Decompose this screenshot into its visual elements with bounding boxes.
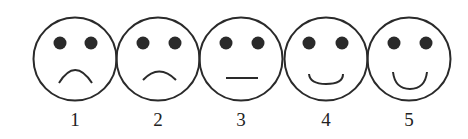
left-eye <box>303 37 316 50</box>
frown-mouth <box>143 72 176 81</box>
left-eye <box>137 37 150 50</box>
left-eye <box>220 37 233 50</box>
face-outline <box>285 18 368 101</box>
frown-mouth <box>59 70 92 83</box>
face-3-neutral[interactable] <box>200 18 283 101</box>
face-outline <box>200 18 283 101</box>
face-2-sad[interactable] <box>117 18 200 101</box>
face-4-label: 4 <box>321 109 331 130</box>
smile-mouth <box>393 72 427 89</box>
face-outline <box>34 18 117 101</box>
face-1-label: 1 <box>70 109 80 130</box>
face-1-very-sad[interactable] <box>34 18 117 101</box>
face-5-very-happy[interactable] <box>368 18 451 101</box>
right-eye <box>252 37 265 50</box>
face-4-happy[interactable] <box>285 18 368 101</box>
right-eye <box>169 37 182 50</box>
face-5-label: 5 <box>404 109 414 130</box>
face-2-label: 2 <box>153 109 163 130</box>
left-eye <box>388 37 401 50</box>
face-3-label: 3 <box>236 109 246 130</box>
right-eye <box>420 37 433 50</box>
left-eye <box>54 37 67 50</box>
face-outline <box>117 18 200 101</box>
right-eye <box>336 37 349 50</box>
rating-scale: 1 2 3 4 5 <box>0 0 468 139</box>
smile-mouth <box>309 74 343 84</box>
right-eye <box>85 37 98 50</box>
